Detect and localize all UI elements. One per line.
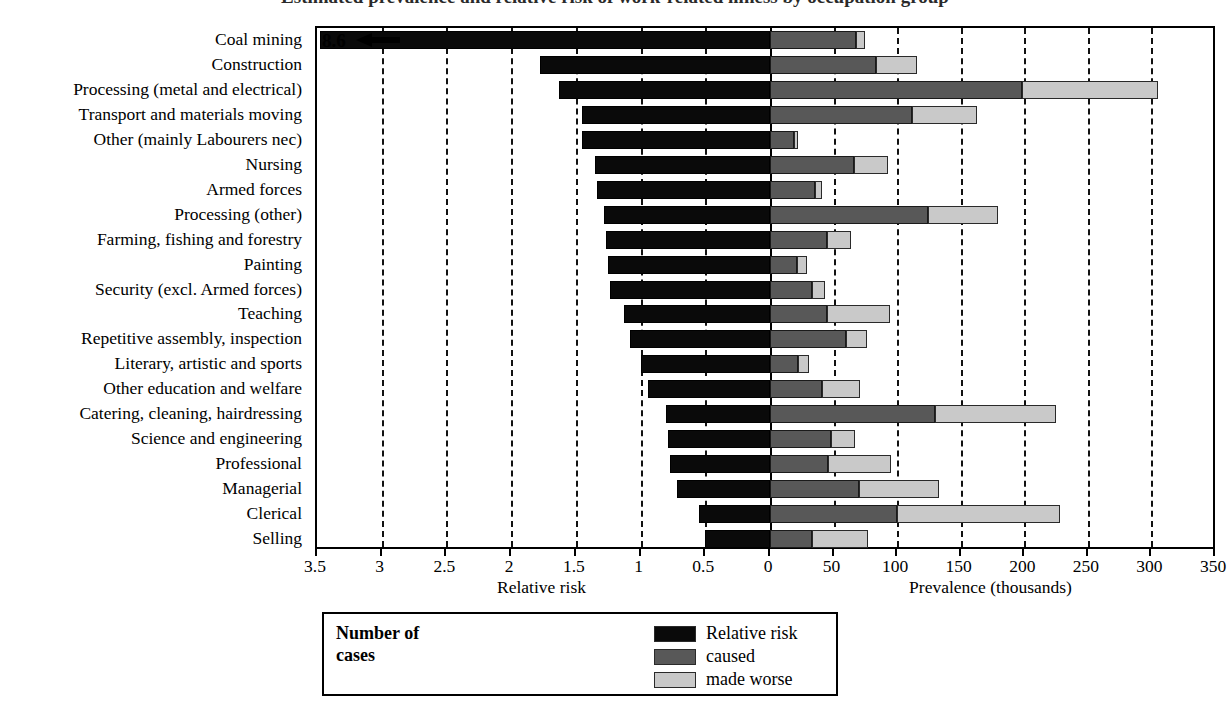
category-label: Science and engineering [131,429,302,447]
bar-made-worse [827,305,889,323]
bar-relative-risk [668,430,770,448]
tick-label-risk-2p5: 2.5 [433,556,455,577]
bar-caused [770,430,831,448]
legend-title-line2: cases [336,644,486,666]
bar-relative-risk [630,330,770,348]
tick-label-prevalence-150: 150 [946,556,972,577]
gridline-prevalence-300 [1151,28,1153,547]
category-label: Teaching [238,304,302,322]
bar-caused [770,206,928,224]
tick-risk-3p5 [315,549,317,556]
bar-caused [770,305,827,323]
category-label: Catering, cleaning, hairdressing [79,404,302,422]
category-label: Painting [244,255,302,273]
bar-relative-risk [641,355,770,373]
tick-label-prevalence-250: 250 [1073,556,1099,577]
bar-made-worse [846,330,866,348]
bar-relative-risk [608,256,770,274]
tick-label-prevalence-100: 100 [882,556,908,577]
category-label: Professional [215,454,302,472]
bar-made-worse [928,206,998,224]
bar-relative-risk [648,380,770,398]
bar-made-worse [798,355,809,373]
tick-label-risk-3: 3 [375,556,384,577]
offscale-value-label: 8.6 [322,30,346,52]
bar-caused [770,81,1022,99]
category-label: Coal mining [215,30,302,48]
tick-risk-2p5 [444,549,446,556]
bar-caused [770,330,846,348]
category-label: Construction [212,55,302,73]
bar-relative-risk [606,231,770,249]
gridline-risk-2p5 [446,28,448,547]
tick-prevalence-0 [768,549,770,556]
bar-caused [770,131,794,149]
category-label: Selling [252,529,302,547]
tick-prevalence-300 [1149,549,1151,556]
tick-risk-0p5 [703,549,705,556]
bar-made-worse [897,505,1060,523]
tick-prevalence-50 [832,549,834,556]
legend-item-label: made worse [706,669,792,690]
bar-caused [770,405,935,423]
legend-swatch-icon [654,672,696,688]
bar-relative-risk [699,505,770,523]
bar-caused [770,480,859,498]
bar-relative-risk [666,405,770,423]
bar-caused [770,256,797,274]
chart-legend: Number of cases Relative riskcausedmade … [322,612,838,696]
tick-risk-2 [509,549,511,556]
bar-caused [770,56,876,74]
legend-item-label: Relative risk [706,623,797,644]
page-title: Estimated prevalence and relative risk o… [281,0,949,8]
tick-prevalence-200 [1022,549,1024,556]
gridline-risk-1p5 [576,28,578,547]
category-label: Other (mainly Labourers nec) [94,130,302,148]
category-label: Other education and welfare [103,379,302,397]
bar-relative-risk [582,131,770,149]
bar-caused [770,156,854,174]
axis-title-prevalence: Prevalence (thousands) [909,577,1072,598]
gridline-risk-3 [382,28,384,547]
bar-relative-risk [595,156,770,174]
bar-caused [770,31,856,49]
category-label: Transport and materials moving [79,105,302,123]
bar-made-worse [935,405,1056,423]
axis-title-relative-risk: Relative risk [497,577,586,598]
tick-risk-3 [380,549,382,556]
bar-caused [770,355,798,373]
tick-label-risk-0p5: 0.5 [692,556,714,577]
bar-relative-risk [597,181,770,199]
left-arrow-icon [356,33,400,47]
tick-label-risk-2: 2 [505,556,514,577]
bar-caused [770,106,912,124]
tick-label-risk-1p5: 1.5 [563,556,585,577]
bar-relative-risk [670,455,770,473]
legend-swatch-icon [654,626,696,642]
legend-title: Number of cases [336,622,486,666]
gridline-prevalence-250 [1088,28,1090,547]
bar-made-worse [831,430,855,448]
bar-made-worse [1022,81,1158,99]
bar-made-worse [854,156,888,174]
bar-caused [770,181,815,199]
category-label: Processing (metal and electrical) [73,80,302,98]
bar-made-worse [812,530,868,548]
category-label: Literary, artistic and sports [115,354,302,372]
bar-made-worse [812,281,825,299]
tick-risk-1 [639,549,641,556]
tick-label-prevalence-350: 350 [1200,556,1226,577]
tick-risk-1p5 [574,549,576,556]
page-title-strip: Estimated prevalence and relative risk o… [0,0,1230,16]
bar-made-worse [815,181,823,199]
category-label: Nursing [246,155,302,173]
category-label: Repetitive assembly, inspection [81,329,302,347]
legend-item-label: caused [706,646,755,667]
bar-caused [770,455,828,473]
tick-prevalence-250 [1086,549,1088,556]
bar-caused [770,505,897,523]
bar-relative-risk [582,106,770,124]
bar-relative-risk [610,281,770,299]
bar-made-worse [828,455,890,473]
category-label-column: Coal miningConstructionProcessing (metal… [0,26,310,549]
